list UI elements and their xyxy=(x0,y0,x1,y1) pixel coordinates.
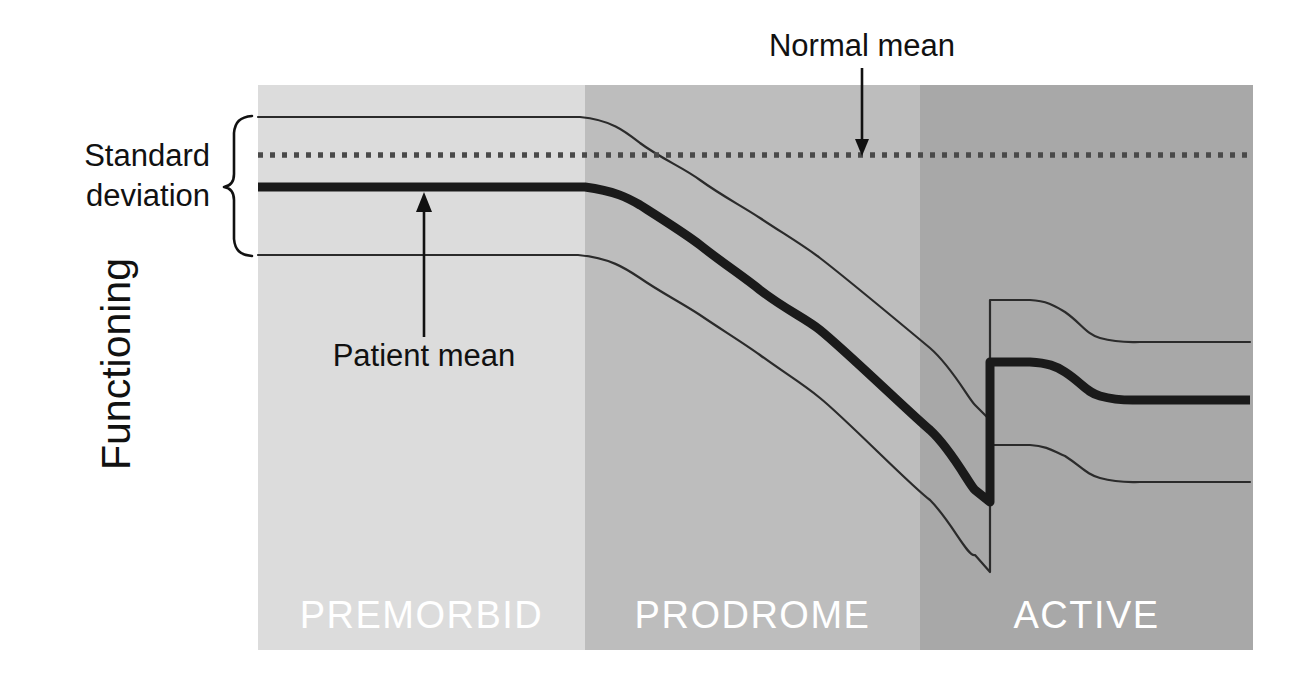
phase-label-premorbid: PREMORBID xyxy=(300,594,544,636)
functioning-course-chart: Normal mean Standard deviation Patient m… xyxy=(0,0,1311,696)
sd-brace-icon xyxy=(224,116,252,256)
phase-label-active: ACTIVE xyxy=(1013,594,1159,636)
phase-band-prodrome xyxy=(585,85,920,650)
standard-deviation-label-line1: Standard xyxy=(84,138,210,173)
patient-mean-label: Patient mean xyxy=(333,338,516,373)
standard-deviation-label-line2: deviation xyxy=(86,178,210,213)
normal-mean-label: Normal mean xyxy=(769,28,955,63)
y-axis-label: Functioning xyxy=(93,258,139,470)
phase-labels: PREMORBID PRODROME ACTIVE xyxy=(300,594,1160,636)
phase-band-active xyxy=(920,85,1253,650)
standard-deviation-annotation: Standard deviation xyxy=(84,116,252,256)
chart-svg: Normal mean Standard deviation Patient m… xyxy=(0,0,1311,696)
phase-label-prodrome: PRODROME xyxy=(635,594,871,636)
